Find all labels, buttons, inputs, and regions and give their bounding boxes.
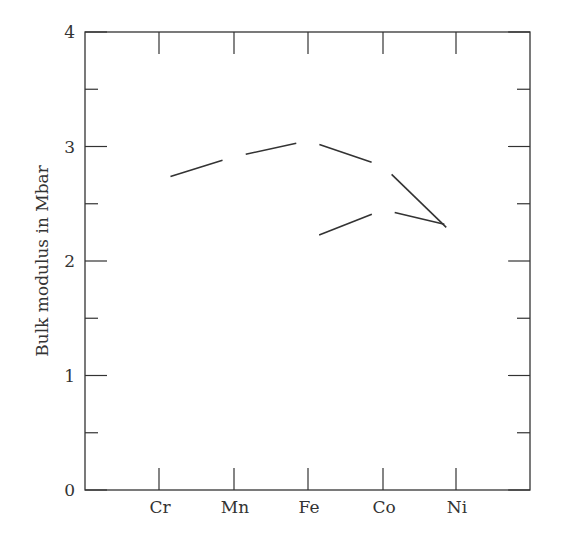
x-tick-label: Cr xyxy=(149,497,171,517)
x-tick-label: Co xyxy=(372,497,395,517)
x-tick-label: Mn xyxy=(221,497,249,517)
plot-frame xyxy=(85,32,530,490)
y-tick-label: 4 xyxy=(64,22,75,42)
y-tick-label: 2 xyxy=(64,251,75,271)
y-tick-label: 1 xyxy=(64,366,75,386)
y-tick-label: 0 xyxy=(64,480,75,500)
x-axis-ticks: CrMnFeCoNi xyxy=(149,32,467,517)
connecting-lines xyxy=(170,143,446,235)
x-tick-label: Ni xyxy=(447,497,468,517)
y-axis-title: Bulk modulus in Mbar xyxy=(32,164,52,356)
bulk-modulus-chart: 01234 CrMnFeCoNi Bulk modulus in Mbar xyxy=(0,0,563,544)
y-tick-label: 3 xyxy=(64,137,75,157)
y-axis-ticks: 01234 xyxy=(64,22,530,500)
x-tick-label: Fe xyxy=(299,497,320,517)
